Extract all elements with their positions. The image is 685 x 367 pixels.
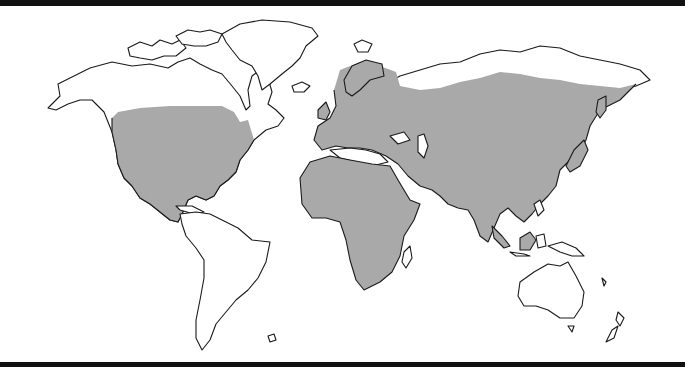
eurasia-africa: [300, 46, 650, 290]
south-america: [180, 212, 276, 350]
tasmania: [568, 326, 574, 332]
australia: [518, 262, 584, 318]
svalbard: [354, 40, 372, 52]
new-zealand: [606, 312, 624, 342]
iceland: [292, 82, 310, 92]
bottom-frame-bar: [0, 362, 685, 367]
north-america: [48, 20, 318, 222]
new-caledonia: [602, 278, 606, 286]
world-map: [0, 6, 685, 362]
